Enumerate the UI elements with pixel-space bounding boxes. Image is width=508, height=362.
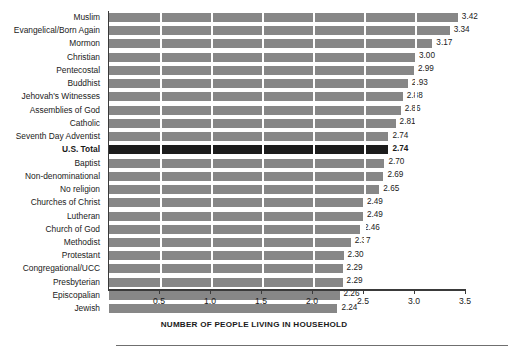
bar-value-label: 2.88	[407, 90, 423, 102]
bar-row: 2.69	[109, 170, 465, 183]
x-tick	[261, 289, 262, 294]
household-size-by-religion-bar-chart: MuslimEvangelical/Born AgainMormonChrist…	[0, 0, 508, 362]
category-label: Evangelical/Born Again	[0, 24, 104, 37]
x-tick	[414, 289, 415, 294]
category-label: Presbyterian	[0, 276, 104, 289]
bar-value-label: 2.49	[367, 209, 383, 221]
category-label: Churches of Christ	[0, 196, 104, 209]
bar-value-label: 2.37	[355, 235, 371, 247]
bar-row: 3.34	[109, 24, 465, 37]
bar-row: 2.86	[109, 104, 465, 117]
bar	[109, 145, 388, 154]
bar-value-label: 2.29	[347, 275, 363, 287]
x-tick	[210, 289, 211, 294]
x-tick-label: 1.5	[255, 296, 267, 306]
bar-row: 2.30	[109, 249, 465, 262]
footer-divider-rule	[116, 345, 508, 346]
bar-row: 2.29	[109, 262, 465, 275]
bar-value-label: 2.81	[400, 116, 416, 128]
bar-value-label: 2.86	[405, 103, 421, 115]
category-label: Mormon	[0, 37, 104, 50]
category-label: Pentecostal	[0, 64, 104, 77]
bar	[109, 39, 432, 48]
bar-value-label: 3.00	[419, 50, 435, 62]
bar	[109, 53, 415, 62]
bar	[109, 264, 343, 273]
x-tick-label: 0.5	[153, 296, 165, 306]
bar-value-label: 2.46	[364, 222, 380, 234]
bar	[109, 159, 384, 168]
category-label: Catholic	[0, 117, 104, 130]
bar-row: 2.37	[109, 236, 465, 249]
bar-row: 2.81	[109, 117, 465, 130]
bar-value-label: 3.34	[454, 24, 470, 36]
bar-row: 2.46	[109, 223, 465, 236]
bar-row: 2.49	[109, 210, 465, 223]
category-label: Baptist	[0, 157, 104, 170]
bar-value-label: 3.17	[436, 37, 452, 49]
bar-value-label: 2.70	[388, 156, 404, 168]
bar-value-label: 2.93	[412, 77, 428, 89]
bar	[109, 66, 414, 75]
category-label: Buddhist	[0, 77, 104, 90]
x-tick-label: 3.0	[408, 296, 420, 306]
category-label: Muslim	[0, 11, 104, 24]
x-axis-line	[108, 289, 465, 291]
x-tick	[465, 289, 466, 294]
bar-value-label: 2.24	[341, 302, 357, 314]
bar-row: 3.17	[109, 37, 465, 50]
bar	[109, 238, 351, 247]
bar	[109, 278, 343, 287]
bar-row: 2.70	[109, 157, 465, 170]
plot-area: 3.423.343.173.002.992.932.882.862.812.74…	[108, 11, 465, 289]
bar-value-label: 2.49	[367, 196, 383, 208]
category-label: Assemblies of God	[0, 104, 104, 117]
bar-row: 3.42	[109, 11, 465, 24]
category-label: Lutheran	[0, 210, 104, 223]
x-tick	[363, 289, 364, 294]
category-label: Methodist	[0, 236, 104, 249]
category-label: Church of God	[0, 223, 104, 236]
bar-row: 2.65	[109, 183, 465, 196]
x-tick-label: 2.5	[357, 296, 369, 306]
bar-value-label: 2.69	[387, 169, 403, 181]
category-label: Non-denominational	[0, 170, 104, 183]
category-label: Episcopalian	[0, 289, 104, 302]
bar	[109, 198, 363, 207]
bar	[109, 92, 403, 101]
bar-value-label: 2.74	[392, 143, 408, 155]
bar-value-label: 2.99	[418, 63, 434, 75]
bar-row: 3.00	[109, 51, 465, 64]
bar	[109, 212, 363, 221]
bar-row: 2.49	[109, 196, 465, 209]
x-tick-label: 2.0	[306, 296, 318, 306]
bar	[109, 79, 408, 88]
category-label: Seventh Day Adventist	[0, 130, 104, 143]
category-label: Jewish	[0, 302, 104, 315]
bar-row: 2.29	[109, 276, 465, 289]
bar-row: 2.99	[109, 64, 465, 77]
x-tick	[159, 289, 160, 294]
bar	[109, 106, 401, 115]
bar-value-label: 2.29	[347, 262, 363, 274]
bar	[109, 132, 388, 141]
bar-rows: 3.423.343.173.002.992.932.882.862.812.74…	[109, 11, 465, 289]
x-tick-label: 3.5	[459, 296, 471, 306]
bar-value-label: 2.74	[392, 130, 408, 142]
bar	[109, 172, 383, 181]
bar	[109, 225, 360, 234]
category-label: Protestant	[0, 249, 104, 262]
category-axis-labels: MuslimEvangelical/Born AgainMormonChrist…	[0, 11, 104, 289]
bar	[109, 291, 340, 300]
bar-value-label: 2.30	[348, 249, 364, 261]
x-tick	[312, 289, 313, 294]
bar-value-label: 2.65	[383, 183, 399, 195]
category-label: No religion	[0, 183, 104, 196]
bar-row: 2.74	[109, 143, 465, 156]
bar-value-label: 3.42	[462, 11, 478, 23]
bar-row: 2.88	[109, 90, 465, 103]
bar	[109, 304, 337, 313]
x-axis-title: NUMBER OF PEOPLE LIVING IN HOUSEHOLD	[0, 320, 508, 329]
bar-row: 2.93	[109, 77, 465, 90]
bar	[109, 26, 450, 35]
